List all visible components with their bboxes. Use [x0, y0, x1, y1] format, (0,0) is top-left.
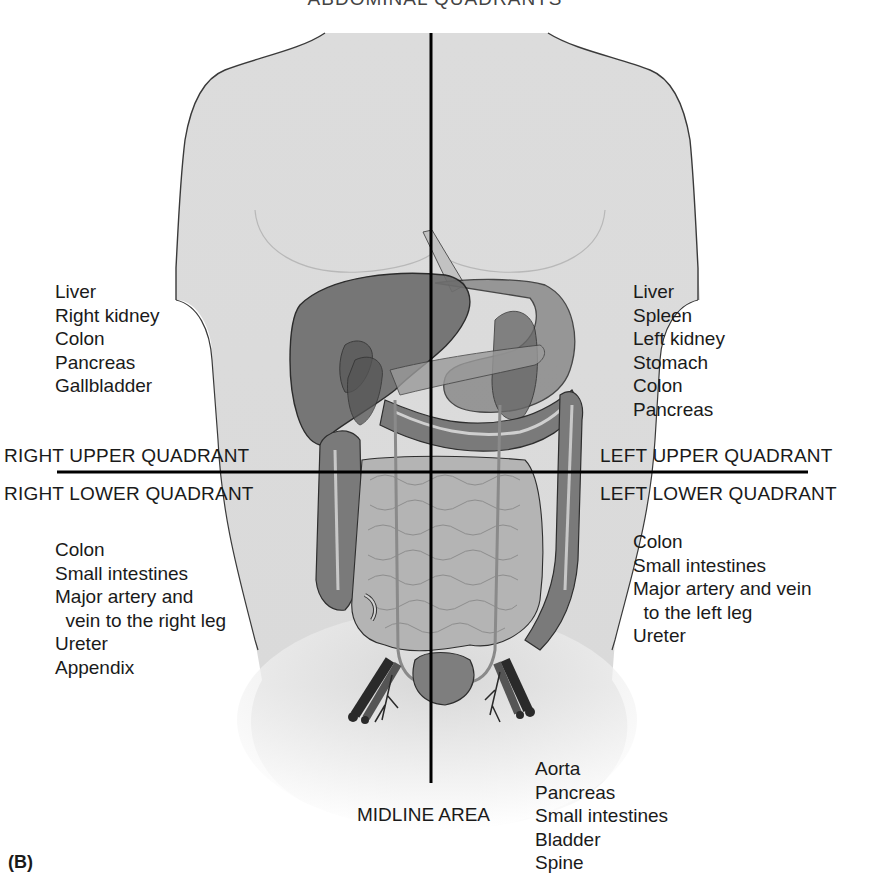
organ-label: Liver [55, 280, 160, 304]
organ-label: Left kidney [633, 327, 725, 351]
right-upper-quadrant-label: RIGHT UPPER QUADRANT [4, 445, 249, 467]
panel-label: (B) [8, 852, 33, 873]
organ-label: Small intestines [55, 562, 226, 586]
right-lower-quadrant-label: RIGHT LOWER QUADRANT [4, 483, 254, 505]
organ-label: to the left leg [633, 601, 811, 625]
abdominal-quadrants-figure: ABDOMINAL QUADRANTS [0, 0, 870, 883]
organ-label: Major artery and [55, 585, 226, 609]
left-lower-quadrant-organs: Colon Small intestines Major artery and … [633, 530, 811, 648]
right-upper-quadrant-organs: Liver Right kidney Colon Pancreas Gallbl… [55, 280, 160, 398]
organ-label: Liver [633, 280, 725, 304]
organ-label: Gallbladder [55, 374, 160, 398]
right-lower-quadrant-organs: Colon Small intestines Major artery and … [55, 538, 226, 679]
organ-label: Appendix [55, 656, 226, 680]
organ-label: Colon [55, 327, 160, 351]
organ-label: Aorta [535, 757, 668, 781]
left-lower-quadrant-label: LEFT LOWER QUADRANT [600, 483, 837, 505]
organ-label: Colon [633, 374, 725, 398]
organ-label: Small intestines [535, 804, 668, 828]
organ-label: Pancreas [633, 398, 725, 422]
small-intestines [352, 456, 543, 651]
torso-illustration [0, 0, 870, 883]
organ-label: Colon [55, 538, 226, 562]
midline-area-label: MIDLINE AREA [357, 804, 490, 826]
organ-label: Bladder [535, 828, 668, 852]
organ-label: vein to the right leg [55, 609, 226, 633]
organ-label: Small intestines [633, 554, 811, 578]
organ-label: Ureter [633, 624, 811, 648]
organ-label: Pancreas [55, 351, 160, 375]
organ-label: Major artery and vein [633, 577, 811, 601]
organ-label: Ureter [55, 632, 226, 656]
organ-label: Spleen [633, 304, 725, 328]
midline-organs: Aorta Pancreas Small intestines Bladder … [535, 757, 668, 875]
left-upper-quadrant-organs: Liver Spleen Left kidney Stomach Colon P… [633, 280, 725, 421]
organ-label: Pancreas [535, 781, 668, 805]
organ-label: Right kidney [55, 304, 160, 328]
left-upper-quadrant-label: LEFT UPPER QUADRANT [600, 445, 833, 467]
organ-label: Colon [633, 530, 811, 554]
organ-label: Spine [535, 851, 668, 875]
organ-label: Stomach [633, 351, 725, 375]
